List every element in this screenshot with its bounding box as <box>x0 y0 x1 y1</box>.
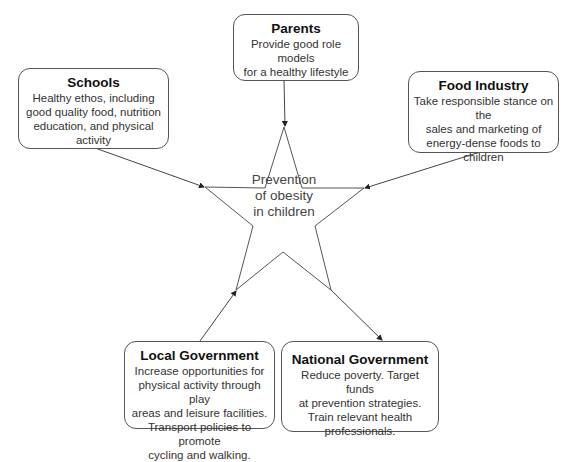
arrow-schools-to-star <box>95 148 204 187</box>
node-desc-line: Reduce poverty. Target funds <box>286 368 434 396</box>
node-desc-line: for a healthy lifestyle <box>238 65 354 79</box>
node-national-government: National Government Reduce poverty. Targ… <box>281 341 439 432</box>
node-title: Local Government <box>129 348 270 364</box>
node-title: Parents <box>238 21 354 37</box>
node-desc-line: Healthy ethos, including <box>23 91 164 105</box>
node-food-industry: Food Industry Take responsible stance on… <box>408 71 559 153</box>
center-label-line: in children <box>244 204 324 220</box>
node-desc-line: at prevention strategies. <box>286 396 434 410</box>
node-title: National Government <box>286 352 434 368</box>
arrow-star-to-national-government <box>331 290 382 340</box>
node-desc-line: Increase opportunities for <box>129 364 270 378</box>
node-desc-line: physical activity through play <box>129 378 270 406</box>
node-schools: Schools Healthy ethos, including good qu… <box>18 68 169 149</box>
center-label-line: of obesity <box>244 188 324 204</box>
node-desc-line: Train relevant health <box>286 410 434 424</box>
node-desc-line: good quality food, nutrition <box>23 105 164 119</box>
node-title: Schools <box>23 75 164 91</box>
node-title: Food Industry <box>413 78 554 94</box>
node-desc-line: Take responsible stance on the <box>413 94 554 122</box>
center-label: Prevention of obesity in children <box>244 172 324 220</box>
node-desc-line: cycling and walking. <box>129 448 270 462</box>
figure-caption-cropped <box>2 434 575 442</box>
node-desc-line: education, and physical activity <box>23 119 164 147</box>
node-desc-line: energy-dense foods to children <box>413 136 554 164</box>
node-desc-line: areas and leisure facilities. <box>129 406 270 420</box>
center-label-line: Prevention <box>244 172 324 188</box>
node-desc-line: sales and marketing of <box>413 122 554 136</box>
node-desc-line: Provide good role models <box>238 37 354 65</box>
arrow-local-government-to-star <box>200 291 236 341</box>
node-local-government: Local Government Increase opportunities … <box>124 341 275 429</box>
arrow-parents-to-star <box>284 80 285 126</box>
node-parents: Parents Provide good role models for a h… <box>233 14 359 81</box>
